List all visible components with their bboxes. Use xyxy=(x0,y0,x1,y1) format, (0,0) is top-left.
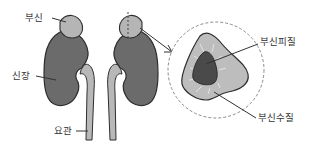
label-adrenal-medulla: 부신수질 xyxy=(258,113,294,123)
label-adrenal-cortex: 부신피질 xyxy=(260,37,296,47)
kidney-diagram xyxy=(0,0,309,150)
right-adrenal-gland xyxy=(119,15,142,38)
right-ureter xyxy=(108,64,122,140)
right-kidney xyxy=(114,31,158,105)
left-kidney xyxy=(44,31,88,105)
left-adrenal-gland xyxy=(60,15,83,38)
label-adrenal-gland: 부신 xyxy=(25,13,43,23)
label-kidney: 신장 xyxy=(12,71,30,81)
left-ureter xyxy=(80,64,94,140)
label-ureter: 요관 xyxy=(54,126,72,136)
